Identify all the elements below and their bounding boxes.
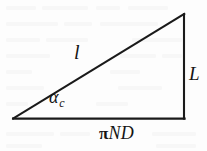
- hypotenuse-label: l: [74, 42, 80, 62]
- base-side-label: πND: [99, 124, 134, 142]
- pi-symbol: π: [99, 124, 109, 143]
- base-angle-label: αc: [49, 88, 65, 109]
- vertical-side-label: L: [189, 64, 200, 83]
- alpha-symbol: α: [49, 87, 59, 107]
- triangle-hypotenuse-line: [13, 14, 184, 118]
- nd-symbol: ND: [109, 123, 134, 143]
- triangle-figure: l αc L πND: [0, 0, 207, 151]
- alpha-subscript: c: [59, 96, 65, 110]
